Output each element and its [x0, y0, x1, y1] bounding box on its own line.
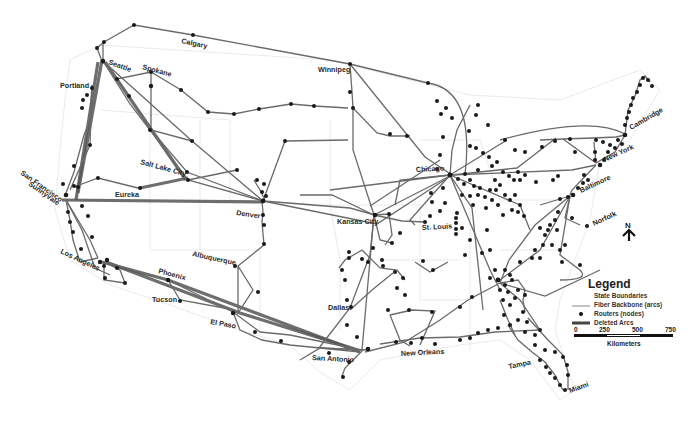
city-label: Salt Lake City	[139, 157, 187, 178]
legend-title: Legend	[588, 277, 631, 291]
scale-segment-3	[640, 334, 673, 337]
city-label: Kansas City	[337, 217, 378, 226]
city-label: Albuquerque	[192, 249, 237, 267]
city-label: Portland	[60, 81, 89, 90]
city-label: El Paso	[210, 317, 238, 330]
city-label: Calgary	[181, 36, 209, 50]
deleted-arcs	[62, 60, 360, 352]
router-node-icon	[570, 311, 590, 317]
city-label: Cambridge	[628, 105, 665, 132]
scale-unit: Kilometers	[607, 340, 641, 347]
city-label: Miami	[568, 379, 590, 394]
city-label: Dallas	[328, 303, 349, 312]
deleted-arc-icon	[570, 320, 590, 326]
city-label: Norfolk	[591, 209, 618, 228]
city-label: San Antonio	[312, 353, 355, 364]
scale-tick-0: 0	[574, 326, 578, 333]
city-label: St. Louis	[422, 221, 453, 232]
scale-segment-2	[607, 334, 640, 337]
network-map: Calgary Seattle Spokane Winnipeg Portlan…	[0, 0, 695, 423]
svg-text:N: N	[625, 221, 631, 230]
fiber-backbone-arcs	[66, 25, 650, 390]
scale-tick-500: 500	[632, 326, 643, 333]
city-label: Tucson	[152, 295, 177, 304]
city-label: Chicago	[416, 163, 445, 174]
north-arrow-icon: N	[620, 220, 640, 242]
north-arrow: N	[620, 220, 640, 246]
city-label: Winnipeg	[318, 65, 350, 74]
city-label: Tampa	[508, 357, 533, 371]
scale-segment-1	[574, 334, 607, 337]
scale-tick-250: 250	[599, 326, 610, 333]
city-label: Eureka	[115, 190, 140, 199]
city-labels: Calgary Seattle Spokane Winnipeg Portlan…	[19, 36, 665, 395]
scale-tick-750: 750	[665, 326, 676, 333]
fiber-arc-icon	[570, 303, 590, 309]
city-label: New Orleans	[401, 347, 445, 358]
city-label: Denver	[236, 208, 262, 220]
